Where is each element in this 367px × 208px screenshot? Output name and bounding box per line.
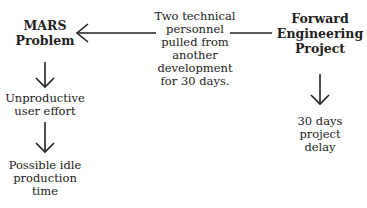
node-forward-project: Forward Engineering Project [272,11,367,56]
node-unproductive: Unproductive user effort [2,92,88,118]
node-mars-problem: MARS Problem [8,18,82,48]
node-delay: 30 days project delay [284,115,356,154]
node-personnel: Two technical personnel pulled from anot… [150,10,240,88]
node-idle-time: Possible idle production time [2,159,88,198]
